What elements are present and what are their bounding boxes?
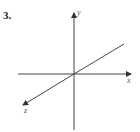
y-axis-label: y <box>76 8 81 17</box>
z-axis-line <box>74 44 124 74</box>
z-axis-label: z <box>23 106 28 115</box>
z-axis <box>23 74 74 105</box>
x-axis-label: x <box>126 76 131 85</box>
axes-diagram: y x z <box>0 0 140 132</box>
